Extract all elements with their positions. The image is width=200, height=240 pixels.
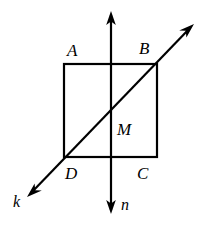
vertex-label-a: A xyxy=(67,42,77,59)
geometry-figure: A B C D M k n xyxy=(0,0,200,240)
point-label-m: M xyxy=(117,121,131,138)
line-label-n: n xyxy=(121,197,129,213)
line-label-k: k xyxy=(13,194,20,210)
vertex-label-b: B xyxy=(139,40,149,57)
geometry-canvas xyxy=(0,0,200,240)
vertex-label-c: C xyxy=(137,165,148,182)
vertex-label-d: D xyxy=(65,165,77,182)
